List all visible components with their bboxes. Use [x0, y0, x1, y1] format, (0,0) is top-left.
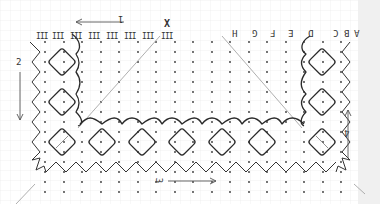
column-letter-g: G [252, 28, 257, 37]
direction-label-3: 3 [154, 178, 163, 183]
direction-label-2: 2 [16, 58, 21, 67]
column-letter-a: A [354, 28, 359, 37]
column-letter-d: D [308, 28, 313, 37]
column-letter-c: C [333, 28, 338, 37]
roman-numeral: III [143, 30, 154, 38]
direction-label-1: 1 [118, 14, 123, 23]
roman-numeral: III [89, 30, 100, 38]
roman-numeral: III [125, 30, 136, 38]
column-letter-h: H [232, 28, 237, 37]
page-margin [358, 0, 380, 204]
column-letter-f: F [270, 28, 275, 37]
roman-numeral: III [107, 30, 118, 38]
start-x-mark: X [164, 19, 170, 29]
roman-numeral: III [37, 30, 48, 38]
roman-numeral: III [71, 30, 82, 38]
column-letter-b: B [344, 28, 349, 37]
roman-numeral: III [162, 30, 173, 38]
lace-pricking-diagram: 1 2 3 4 X III III III III III III III II… [0, 0, 380, 204]
direction-label-4: 4 [344, 128, 349, 137]
column-letter-e: E [288, 28, 293, 37]
roman-numeral: III [53, 30, 64, 38]
